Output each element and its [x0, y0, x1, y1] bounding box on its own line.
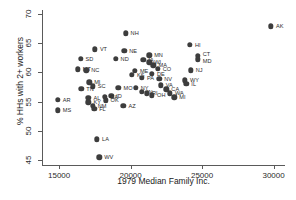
data-point [268, 24, 273, 29]
data-point [188, 68, 193, 73]
data-point [79, 86, 84, 91]
data-point [122, 48, 127, 53]
data-point [195, 57, 200, 62]
data-point-label: TN [86, 86, 93, 92]
data-point [129, 72, 134, 77]
plot-area: 15000200002500030000 455055606570 AKNHHI… [42, 10, 285, 165]
data-point [96, 155, 101, 160]
scatter-chart: 15000200002500030000 455055606570 AKNHHI… [0, 0, 296, 200]
data-point [187, 42, 192, 47]
y-axis-title: % HHs with 2+ workers [15, 1, 25, 161]
y-tick [38, 14, 42, 15]
data-point-label: VT [100, 46, 107, 52]
data-point-label: NV [164, 76, 172, 82]
data-point [149, 92, 154, 97]
data-point [94, 136, 99, 141]
data-point-label: SD [86, 56, 94, 62]
data-point [158, 82, 163, 87]
data-point-label: HI [195, 42, 201, 48]
data-point-label: NH [131, 30, 139, 36]
x-tick [274, 165, 275, 169]
data-point-label: ND [121, 56, 129, 62]
y-axis-line [42, 10, 43, 165]
data-point [141, 57, 146, 62]
data-point-label: CT [203, 51, 210, 57]
y-tick [38, 102, 42, 103]
data-point [92, 47, 97, 52]
data-point [84, 68, 89, 73]
y-tick [38, 72, 42, 73]
x-tick [202, 165, 203, 169]
data-point-label: LA [102, 136, 109, 142]
data-point-label: SC [98, 83, 106, 89]
data-point [172, 95, 177, 100]
data-point-label: NE [129, 48, 137, 54]
data-point-label: MO [123, 85, 132, 91]
data-point-label: FL [99, 106, 106, 112]
data-point [78, 56, 83, 61]
data-point-label: NC [91, 67, 99, 73]
data-point-label: AZ [128, 103, 135, 109]
data-point [157, 76, 162, 81]
data-point [75, 67, 80, 72]
data-point-label: OH [157, 92, 165, 98]
x-tick [131, 165, 132, 169]
data-point [133, 85, 138, 90]
data-point [123, 31, 128, 36]
y-tick [38, 43, 42, 44]
data-point-label: AR [63, 97, 71, 103]
data-point-label: IL [191, 81, 196, 87]
data-point-label: MD [203, 58, 212, 64]
data-point-label: NJ [196, 67, 203, 73]
data-point [55, 108, 60, 113]
data-point [139, 75, 144, 80]
data-point [116, 85, 121, 90]
y-tick [38, 160, 42, 161]
data-point-label: WV [104, 154, 113, 160]
data-point-label: MI [179, 94, 185, 100]
data-point-label: AK [276, 23, 283, 29]
y-tick [38, 131, 42, 132]
x-axis-line [42, 165, 285, 166]
data-point-label: MS [63, 107, 71, 113]
data-point [184, 81, 189, 86]
data-point-label: PA [147, 75, 154, 81]
data-point-label: MN [154, 52, 163, 58]
data-point [113, 56, 118, 61]
x-tick [59, 165, 60, 169]
data-point-label: OK [111, 97, 119, 103]
x-axis-title: 1979 Median Family Inc. [42, 176, 285, 186]
data-point [91, 106, 96, 111]
data-point [55, 97, 60, 102]
data-point [121, 103, 126, 108]
